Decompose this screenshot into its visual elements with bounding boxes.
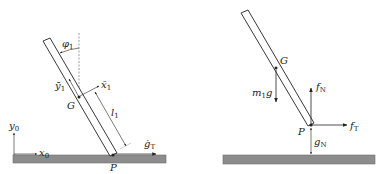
l1-label: l1 <box>111 107 119 120</box>
center-of-mass-point-left <box>78 96 81 99</box>
gN-label: gN <box>314 136 327 149</box>
left-panel: φ1 ȳ1 x̄1 G l1 ġT P y0 x0 <box>8 33 166 173</box>
P-label-left: P <box>109 162 117 173</box>
gdot-label: ġT <box>144 138 155 151</box>
ground-left <box>13 155 166 163</box>
ybar-label: ȳ1 <box>54 80 65 93</box>
fT-label: fT <box>349 120 359 133</box>
xbar-label: x̄1 <box>101 79 111 92</box>
right-panel: G m1g fN fT P gN <box>223 10 375 164</box>
center-of-mass-point-right <box>275 67 278 70</box>
fN-label: fN <box>315 81 326 94</box>
P-label-right: P <box>297 126 305 137</box>
y0-label: y0 <box>8 120 19 133</box>
rod-contact-diagram: φ1 ȳ1 x̄1 G l1 ġT P y0 x0 G m1g fN fT P … <box>0 0 379 174</box>
G-label-right: G <box>280 55 288 66</box>
contact-point-right <box>309 123 312 126</box>
dimension-tick <box>120 143 131 149</box>
ground-right <box>223 155 375 164</box>
gravity-label: m1g <box>252 87 272 100</box>
phi-label: φ1 <box>62 38 73 51</box>
G-label-left: G <box>67 100 75 111</box>
